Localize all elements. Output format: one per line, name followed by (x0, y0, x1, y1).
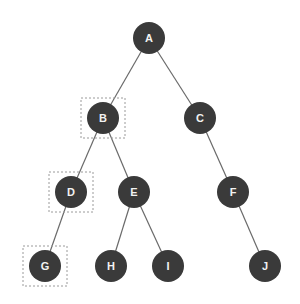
tree-node-E: E (118, 176, 150, 208)
node-label: C (196, 112, 204, 124)
tree-node-G: G (29, 250, 61, 282)
tree-node-D: D (55, 176, 87, 208)
node-label: D (67, 186, 75, 198)
node-label: A (145, 32, 153, 44)
tree-node-H: H (95, 250, 127, 282)
tree-node-B: B (87, 102, 119, 134)
tree-node-C: C (184, 102, 216, 134)
tree-node-A: A (133, 22, 165, 54)
node-label: B (99, 112, 107, 124)
node-label: J (262, 260, 268, 272)
tree-node-F: F (217, 176, 249, 208)
tree-svg: ABCDEFGHIJ (0, 0, 300, 304)
node-label: I (166, 260, 169, 272)
edges-layer (45, 38, 265, 266)
tree-node-J: J (249, 250, 281, 282)
node-label: G (41, 260, 50, 272)
node-label: H (107, 260, 115, 272)
node-label: E (130, 186, 137, 198)
tree-diagram: ABCDEFGHIJ (0, 0, 300, 304)
nodes-layer: ABCDEFGHIJ (29, 22, 281, 282)
node-label: F (230, 186, 237, 198)
tree-node-I: I (152, 250, 184, 282)
